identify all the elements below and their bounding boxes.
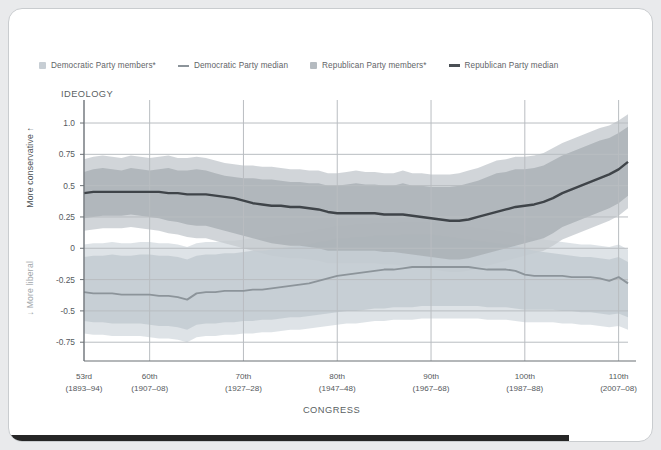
x-tick-years-6: (2007–08) [600,384,637,393]
x-tick-congress-6: 110th [609,372,629,381]
x-tick-years-0: (1893–94) [66,384,103,393]
figure-card: Democratic Party members* Democratic Par… [8,8,653,442]
y-tick-label-7: -0.75 [56,337,75,347]
x-tick-congress-4: 90th [423,372,439,381]
x-tick-years-2: (1927–28) [225,384,262,393]
figure-caption-bar: FIGURE 1.1 [9,435,569,442]
y-tick-label-6: -0.5 [61,306,76,316]
y-tick-label-5: -0.25 [56,275,75,285]
x-tick-congress-0: 53rd [76,372,92,381]
x-tick-years-3: (1947–48) [319,384,356,393]
x-tick-years-4: (1967–68) [413,384,450,393]
y-tick-label-0: 1.0 [63,118,75,128]
ideology-chart: 1.00.750.50.250-0.25-0.5-0.7553rd(1893–9… [9,9,653,442]
x-tick-congress-1: 60th [142,372,158,381]
y-tick-label-1: 0.75 [59,149,76,159]
x-tick-congress-3: 80th [329,372,345,381]
y-tick-label-3: 0.25 [59,212,76,222]
x-tick-congress-5: 100th [515,372,535,381]
x-tick-congress-2: 70th [236,372,252,381]
x-tick-years-5: (1987–88) [506,384,543,393]
y-tick-label-2: 0.5 [63,181,75,191]
x-tick-years-1: (1907–08) [131,384,168,393]
y-tick-label-4: 0 [70,243,75,253]
